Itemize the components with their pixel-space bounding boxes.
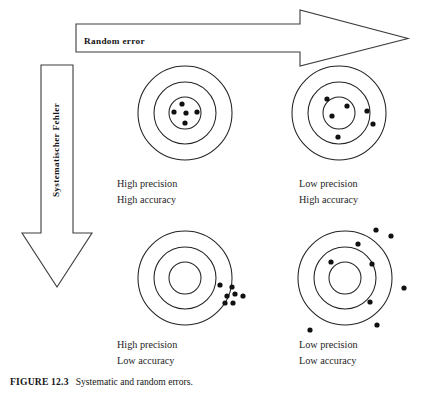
shot-dot [240, 293, 245, 298]
shot-dot [355, 241, 360, 246]
shot-dot [374, 322, 379, 327]
top-left-label: High precisionHigh accuracy [117, 176, 177, 207]
shot-dot [232, 291, 237, 296]
precision-label: High precision [117, 337, 177, 353]
target-bottom-left [138, 231, 246, 325]
precision-label: Low precision [299, 337, 358, 353]
shot-dot [324, 96, 329, 101]
figure-caption: FIGURE 12.3Systematic and random errors. [10, 376, 193, 387]
shot-dot [182, 120, 187, 125]
target-top-right [292, 66, 386, 160]
shot-dot [222, 300, 227, 305]
shot-dot [388, 233, 393, 238]
target-ring-2 [314, 247, 376, 309]
shot-dot [373, 227, 378, 232]
accuracy-label: Low accuracy [299, 353, 358, 369]
shot-dot [171, 109, 176, 114]
target-ring-2 [154, 247, 216, 309]
figure-svg-canvas: Random error Systematischer Fehler [0, 0, 426, 400]
shot-dot [229, 284, 234, 289]
shot-dot [230, 300, 235, 305]
target-ring-1 [138, 231, 232, 325]
target-ring-1 [298, 231, 392, 325]
precision-label: Low precision [299, 176, 358, 192]
target-ring-3 [169, 262, 201, 294]
target-top-left [138, 66, 232, 160]
shot-dot [369, 261, 374, 266]
shot-dot [328, 259, 333, 264]
systematic-error-arrow: Systematischer Fehler [22, 65, 92, 287]
shot-dot [307, 327, 312, 332]
target-ring-1 [292, 66, 386, 160]
precision-label: High precision [117, 176, 177, 192]
shot-dot [364, 108, 369, 113]
systematic-error-arrow-label: Systematischer Fehler [51, 103, 61, 197]
target-bottom-right [298, 227, 407, 332]
target-ring-3 [329, 262, 361, 294]
shot-dot [179, 101, 184, 106]
figure-container: Random error Systematischer Fehler High … [0, 0, 426, 400]
figure-caption-text: Systematic and random errors. [76, 376, 193, 387]
shot-dot [194, 109, 199, 114]
random-error-arrow: Random error [76, 10, 408, 66]
targets-layer [138, 66, 407, 333]
shot-dot [329, 113, 334, 118]
shot-dot [401, 285, 406, 290]
shot-dot [370, 121, 375, 126]
accuracy-label: High accuracy [117, 192, 177, 208]
shot-dot [344, 103, 349, 108]
target-ring-3 [323, 97, 355, 129]
shot-dot [217, 282, 222, 287]
top-right-label: Low precisionHigh accuracy [299, 176, 358, 207]
bottom-left-label: High precisionLow accuracy [117, 337, 177, 368]
figure-caption-number: FIGURE 12.3 [10, 376, 69, 387]
shot-dot [224, 293, 229, 298]
shot-dot [335, 134, 340, 139]
shot-dot [183, 110, 188, 115]
accuracy-label: Low accuracy [117, 353, 177, 369]
accuracy-label: High accuracy [299, 192, 358, 208]
random-error-arrow-label: Random error [84, 36, 145, 46]
shot-dot [367, 299, 372, 304]
bottom-right-label: Low precisionLow accuracy [299, 337, 358, 368]
